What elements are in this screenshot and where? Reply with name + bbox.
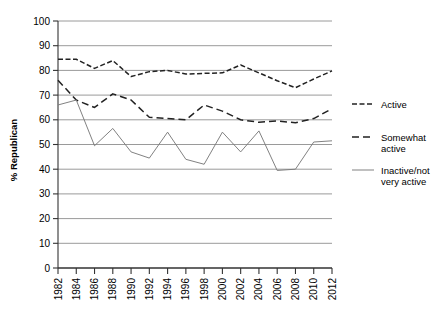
legend-label-2-line2[interactable]: very active — [381, 176, 426, 187]
x-axis-tick-label: 2008 — [290, 278, 301, 301]
x-axis-tick-label: 1994 — [162, 278, 173, 301]
x-axis-tick-label: 1986 — [89, 278, 100, 301]
y-axis-tick-label: 20 — [39, 213, 51, 224]
legend-label-1-line2[interactable]: active — [381, 143, 406, 154]
x-axis-tick-label: 1988 — [107, 278, 118, 301]
y-axis-tick-label: 10 — [39, 238, 51, 249]
y-axis-tick-label: 100 — [33, 16, 50, 27]
legend-label-0[interactable]: Active — [381, 99, 407, 110]
y-axis-tick-label: 30 — [39, 188, 51, 199]
x-axis-tick-label: 1990 — [126, 278, 137, 301]
y-axis-tick-label: 0 — [44, 263, 50, 274]
x-axis-tick-label: 1982 — [53, 278, 64, 301]
x-axis-tick-label: 2006 — [272, 278, 283, 301]
y-axis-tick-label: 80 — [39, 65, 51, 76]
legend-label-2[interactable]: Inactive/not — [381, 165, 430, 176]
line-chart: 1009080706050403020100 19821984198619881… — [0, 0, 444, 322]
x-axis-tick-label: 1992 — [144, 278, 155, 301]
chart-container: 1009080706050403020100 19821984198619881… — [0, 0, 444, 322]
y-axis-tick-label: 70 — [39, 90, 51, 101]
y-axis-tick-label: 60 — [39, 114, 51, 125]
legend-label-1[interactable]: Somewhat — [381, 132, 426, 143]
y-axis-tick-label: 40 — [39, 164, 51, 175]
y-axis-tick-label: 90 — [39, 40, 51, 51]
x-axis-tick-label: 2000 — [217, 278, 228, 301]
x-axis-tick-label: 1998 — [199, 278, 210, 301]
y-axis-tick-label: 50 — [39, 139, 51, 150]
y-axis-title: % Republican — [8, 119, 19, 181]
x-axis-tick-label: 1996 — [180, 278, 191, 301]
x-axis-tick-label: 1984 — [71, 278, 82, 301]
x-axis-tick-label: 2004 — [253, 278, 264, 301]
x-axis-tick-label: 2010 — [308, 278, 319, 301]
x-axis-tick-label: 2012 — [327, 278, 338, 301]
x-axis-tick-label: 2002 — [235, 278, 246, 301]
